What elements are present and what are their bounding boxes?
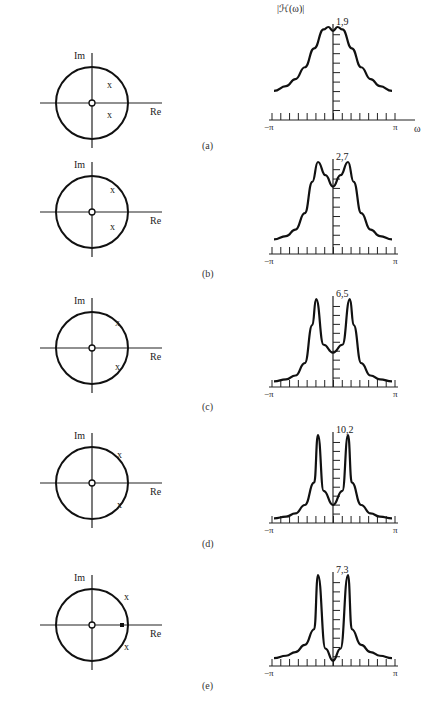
- peak-value-label: 7,3: [336, 564, 349, 575]
- re-label: Re: [150, 628, 161, 639]
- pole-marker: x: [124, 641, 129, 652]
- x-max-label: π: [393, 668, 398, 678]
- zero-marker: [89, 622, 95, 628]
- x-min-label: −π: [264, 668, 274, 678]
- truncated-caption-text: [0, 690, 427, 703]
- pole-marker: x: [124, 591, 129, 602]
- zero-marker-filled: [120, 623, 124, 627]
- magnitude-plot: [269, 572, 398, 666]
- pole-zero-plot: xx: [40, 575, 162, 670]
- panel-e-graphics: xx: [0, 0, 427, 703]
- im-label: Im: [74, 572, 85, 583]
